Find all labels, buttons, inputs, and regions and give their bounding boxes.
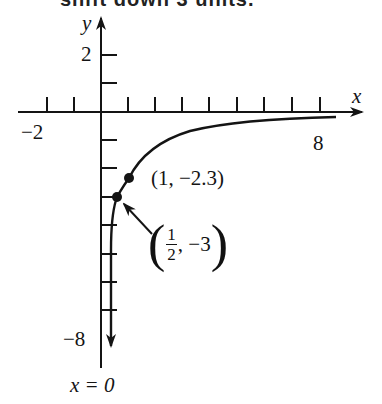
x-tick-label-neg2: −2 bbox=[21, 122, 43, 143]
point-2-label: ( 1 2 , −3 ) bbox=[148, 218, 228, 270]
x-ticks bbox=[47, 97, 320, 112]
paren-open: ( bbox=[148, 218, 165, 270]
y-tick-label-2: 2 bbox=[81, 44, 92, 65]
point-1-label: (1, −2.3) bbox=[151, 168, 224, 189]
point-half-neg3 bbox=[112, 192, 122, 202]
x-axis-label: x bbox=[352, 86, 361, 107]
graph bbox=[0, 0, 382, 404]
paren-close: ) bbox=[211, 218, 228, 270]
x-tick-label-8: 8 bbox=[313, 133, 324, 154]
point-2-y: , −3 bbox=[178, 232, 211, 257]
point-1-neg2.3 bbox=[124, 173, 134, 183]
y-tick-label-neg8: −8 bbox=[63, 329, 85, 350]
y-ticks bbox=[101, 55, 117, 310]
y-axis-label: y bbox=[82, 13, 91, 34]
fraction-one-half: 1 2 bbox=[166, 226, 177, 263]
asymptote-label: x = 0 bbox=[70, 375, 115, 396]
